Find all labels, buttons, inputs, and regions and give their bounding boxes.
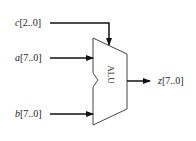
b-range: [7..0] [20,108,42,119]
alu-label: ALU [106,65,115,84]
a-range: [7..0] [20,52,42,63]
b-input-label: b[7..0] [15,109,42,119]
c-input-label: c[2..0] [15,18,41,28]
alu-diagram: c[2..0] a[7..0] b[7..0] z[7..0] ALU [0,0,196,141]
a-input-label: a[7..0] [15,53,42,63]
c-range: [2..0] [19,17,41,28]
z-output-label: z[7..0] [158,76,184,86]
z-range: [7..0] [162,75,184,86]
